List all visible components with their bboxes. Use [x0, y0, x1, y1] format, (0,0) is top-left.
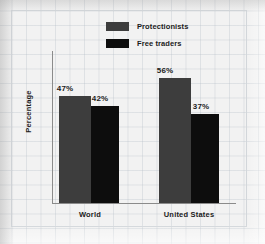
- plot-area: Protectionists Free traders Percentage 4…: [12, 11, 246, 226]
- legend-swatch-icon-protectionists: [106, 22, 129, 31]
- bar-world-free-traders[interactable]: [91, 106, 119, 203]
- x-axis-line: [52, 203, 236, 204]
- legend-swatch-icon-free-traders: [106, 39, 129, 48]
- bar-world-protectionists[interactable]: [59, 96, 91, 203]
- y-axis-line: [52, 51, 53, 204]
- bar-united-states-protectionists[interactable]: [159, 78, 191, 203]
- legend-item-protectionists[interactable]: Protectionists: [106, 20, 236, 33]
- chart-legend: Protectionists Free traders: [106, 20, 236, 54]
- bar-value-united-states-free-traders: 37%: [185, 102, 217, 111]
- bar-value-world-free-traders: 42%: [84, 94, 116, 103]
- legend-label-protectionists: Protectionists: [137, 23, 188, 31]
- bar-united-states-free-traders[interactable]: [191, 114, 219, 203]
- bar-value-world-protectionists: 47%: [49, 84, 81, 93]
- x-axis-label-united-states: United States: [150, 210, 228, 219]
- legend-label-free-traders: Free traders: [137, 40, 182, 48]
- chart-panel: Protectionists Free traders Percentage 4…: [11, 10, 247, 227]
- bar-value-united-states-protectionists: 56%: [149, 66, 181, 75]
- x-axis-label-world: World: [51, 210, 129, 219]
- legend-item-free-traders[interactable]: Free traders: [106, 37, 236, 50]
- y-axis-title: Percentage: [24, 82, 33, 142]
